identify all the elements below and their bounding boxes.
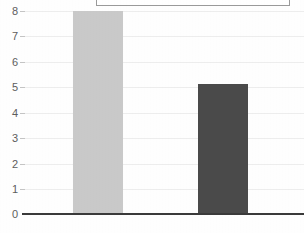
ytick-mark-5	[20, 87, 25, 88]
ytick-mark-1	[20, 189, 25, 190]
ytick-label-7: 7	[4, 31, 18, 42]
gridline-4	[22, 113, 304, 114]
ytick-label-6: 6	[4, 57, 18, 68]
ytick-mark-7	[20, 36, 25, 37]
gridline-1	[22, 189, 304, 190]
ytick-label-1: 1	[4, 184, 18, 195]
gridline-6	[22, 62, 304, 63]
gridline-8	[22, 11, 304, 12]
gridline-2	[22, 164, 304, 165]
ytick-label-3: 3	[4, 133, 18, 144]
ytick-mark-3	[20, 138, 25, 139]
gridline-7	[22, 36, 304, 37]
ytick-mark-6	[20, 62, 25, 63]
x-axis-baseline	[22, 213, 304, 215]
ytick-label-0: 0	[4, 209, 18, 220]
gridline-3	[22, 138, 304, 139]
gridline-5	[22, 87, 304, 88]
ytick-label-5: 5	[4, 82, 18, 93]
plot-area: 8 7 6 5 4 3 2 1 0	[0, 0, 304, 233]
bar-chart: 8 7 6 5 4 3 2 1 0	[0, 0, 304, 233]
bar-series-1	[198, 84, 248, 213]
bar-series-0	[73, 11, 123, 213]
ytick-label-8: 8	[4, 6, 18, 17]
ytick-mark-4	[20, 113, 25, 114]
ytick-mark-8	[20, 11, 25, 12]
ytick-label-4: 4	[4, 108, 18, 119]
ytick-label-2: 2	[4, 159, 18, 170]
ytick-mark-2	[20, 164, 25, 165]
